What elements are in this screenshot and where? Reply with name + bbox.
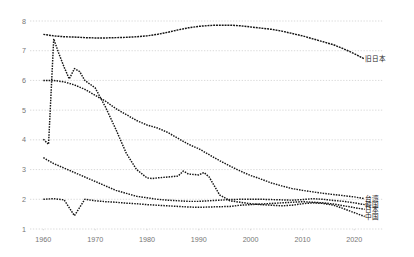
ytick-label-4: 4 xyxy=(22,135,26,144)
series-line-中国 xyxy=(43,39,364,217)
xtick-label-2000: 2000 xyxy=(243,235,259,244)
xtick-labels-group: 1960197019801990200020102020 xyxy=(35,235,362,244)
series-label-旧日本: 旧日本 xyxy=(365,54,386,63)
xtick-label-2020: 2020 xyxy=(346,235,362,244)
ytick-label-3: 3 xyxy=(22,165,26,174)
chart-plot-area: 12345678 1960197019801990200020102020 旧日… xyxy=(0,0,414,257)
series-label-中国: 中国 xyxy=(365,212,379,221)
series-labels-group: 旧日本台湾韓国日本中国 xyxy=(365,54,386,220)
ytick-label-2: 2 xyxy=(22,195,26,204)
ytick-labels-group: 12345678 xyxy=(22,17,26,234)
xtick-label-1970: 1970 xyxy=(87,235,103,244)
xtick-label-1980: 1980 xyxy=(139,235,155,244)
ytick-label-1: 1 xyxy=(22,225,26,234)
ytick-label-6: 6 xyxy=(22,76,26,85)
fertility-rate-line-chart: 12345678 1960197019801990200020102020 旧日… xyxy=(0,0,414,257)
series-line-韓国 xyxy=(43,158,364,205)
ytick-label-8: 8 xyxy=(22,17,26,26)
series-group xyxy=(43,25,364,216)
ytick-label-7: 7 xyxy=(22,46,26,55)
xtick-label-1990: 1990 xyxy=(191,235,207,244)
xtick-label-2010: 2010 xyxy=(294,235,310,244)
ytick-label-5: 5 xyxy=(22,106,26,115)
series-line-日本 xyxy=(43,199,364,216)
xtick-label-1960: 1960 xyxy=(35,235,51,244)
series-line-旧日本 xyxy=(43,25,364,59)
